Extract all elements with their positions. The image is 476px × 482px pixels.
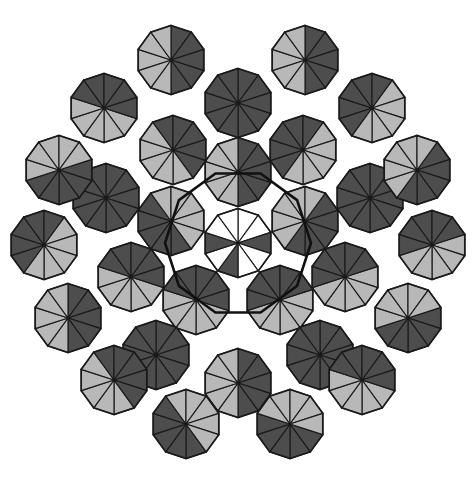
- decagon-tile-group: [81, 346, 147, 415]
- decagon-tile-group: [205, 138, 271, 207]
- decagon-tile-group: [205, 69, 271, 138]
- decagon-tile-group: [272, 26, 338, 95]
- decagon-tile-group: [257, 390, 323, 459]
- decagon-tile-group: [375, 284, 441, 353]
- decagon-tile-group: [35, 284, 101, 353]
- decagon-tile-group: [138, 26, 204, 95]
- decagon-tile-group: [98, 243, 164, 312]
- decagon-tile-group: [205, 209, 271, 278]
- decagon-tile-group: [270, 116, 336, 185]
- decagon-tile-group: [312, 243, 378, 312]
- decagon-tile-group: [384, 136, 450, 205]
- tiling-figure: [0, 0, 476, 482]
- decagon-tile-group: [153, 390, 219, 459]
- decagon-tile-group: [140, 116, 206, 185]
- decagon-tile-group: [399, 211, 465, 280]
- decagon-tile-group: [26, 136, 92, 205]
- decagon-tile-group: [11, 211, 77, 280]
- decagon-tile-group: [71, 74, 137, 143]
- decagon-tile-group: [339, 74, 405, 143]
- decagon-tile-group: [163, 266, 229, 335]
- decagon-tile-group: [247, 266, 313, 335]
- decagon-tile-group: [329, 346, 395, 415]
- tiling-canvas: [0, 0, 476, 482]
